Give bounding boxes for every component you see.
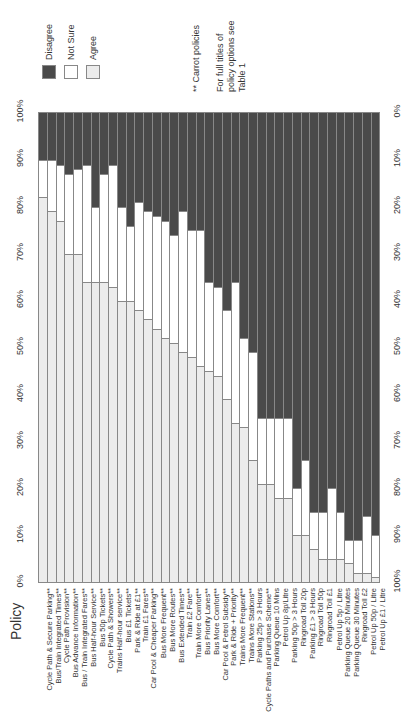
segment-disagree [328, 113, 336, 488]
segment-disagree [302, 113, 310, 460]
category-axis-title: Policy [8, 603, 24, 640]
bar-column [83, 113, 92, 582]
segment-agree [258, 484, 266, 582]
segment-disagree [310, 113, 318, 512]
bar-column [337, 113, 346, 582]
segment-disagree [118, 113, 126, 207]
bar-column [372, 113, 380, 582]
segment-disagree [354, 113, 362, 540]
bar-column [197, 113, 206, 582]
category-label-slot: Petrol Up £1 / Litre [371, 588, 380, 724]
bar-column [170, 113, 179, 582]
segment-not-sure [83, 165, 91, 282]
left-tick-100: 100% [15, 96, 25, 126]
segment-disagree [337, 113, 345, 512]
segment-not-sure [232, 282, 240, 423]
segment-agree [179, 352, 187, 582]
category-label-slot: Car Pool & Cheaper Parking** [143, 588, 152, 724]
legend-item-agree: Agree [84, 10, 106, 80]
segment-not-sure [249, 352, 257, 460]
category-label-slot: Ringroad Toll £1 [319, 588, 328, 724]
category-label-slot: Train More Comfort** [187, 588, 196, 724]
segment-not-sure [135, 202, 143, 310]
right-tick-80: 80% [392, 472, 402, 502]
segment-not-sure [240, 338, 248, 427]
segment-not-sure [345, 540, 353, 563]
right-tick-60: 60% [392, 378, 402, 408]
segment-agree [57, 221, 65, 582]
segment-disagree [135, 113, 143, 202]
right-tick-0: 0% [392, 96, 402, 126]
left-tick-70: 70% [15, 237, 25, 267]
segment-not-sure [65, 174, 73, 254]
segment-agree [170, 343, 178, 582]
category-label-slot: Petrol Up 5p / Litre [327, 588, 336, 724]
bar-column [153, 113, 162, 582]
category-label-slot: Bus Extended Times** [169, 588, 178, 724]
bar-column [293, 113, 302, 582]
bar-column [302, 113, 311, 582]
segment-agree [74, 254, 82, 582]
bar-column [310, 113, 319, 582]
category-labels: Cycle Path & Secure Parking**Bus/Train I… [38, 588, 380, 724]
bar-column [162, 113, 171, 582]
category-label-slot: Parking £1 > 3 Hours [301, 588, 310, 724]
category-label-slot: Car Pool & Petrol Subsidy** [213, 588, 222, 724]
segment-disagree [74, 113, 82, 169]
bar-column [65, 113, 74, 582]
bar-column [92, 113, 101, 582]
right-tick-10: 10% [392, 143, 402, 173]
bar-column [144, 113, 153, 582]
segment-not-sure [214, 287, 222, 376]
segment-disagree [109, 113, 117, 165]
segment-disagree [197, 113, 205, 230]
segment-disagree [48, 113, 56, 160]
segment-agree [345, 563, 353, 582]
segment-agree [310, 549, 318, 582]
legend-label-disagree: Disagree [44, 24, 54, 60]
category-label-slot: Ringroad Toll £2 [354, 588, 363, 724]
right-tick-50: 50% [392, 331, 402, 361]
left-tick-20: 20% [15, 472, 25, 502]
bar-column [179, 113, 188, 582]
bar-column [328, 113, 337, 582]
category-label-slot: Petrol Up 50p / Litre [362, 588, 371, 724]
segment-disagree [363, 113, 371, 516]
legend-label-not-sure: Not Sure [66, 24, 76, 60]
segment-disagree [372, 113, 380, 535]
segment-agree [205, 371, 213, 582]
category-label-slot: Ringroad Toll 20p [292, 588, 301, 724]
segment-disagree [153, 113, 161, 216]
bar-column [363, 113, 372, 582]
legend-label-agree: Agree [88, 36, 98, 60]
category-label-slot: Parking 25p > 3 Hours [248, 588, 257, 724]
segment-agree [363, 573, 371, 582]
segment-not-sure [284, 418, 292, 498]
right-tick-70: 70% [392, 425, 402, 455]
category-label-slot: Cycle Path & Showers** [99, 588, 108, 724]
segment-not-sure [100, 174, 108, 282]
segment-disagree [170, 113, 178, 235]
segment-agree [162, 338, 170, 582]
category-label-slot: Park & Ride at £1** [126, 588, 135, 724]
legend-swatch-disagree [42, 65, 56, 79]
segment-not-sure [74, 169, 82, 253]
bar-column [275, 113, 284, 582]
segment-not-sure [144, 211, 152, 319]
segment-not-sure [302, 460, 310, 535]
category-label-slot: Parking Queue 10 Mins [266, 588, 275, 724]
segment-not-sure [363, 516, 371, 572]
bar-column [57, 113, 66, 582]
category-label-slot: Ringroad Toll 50p [310, 588, 319, 724]
segment-not-sure [267, 418, 275, 484]
segment-agree [267, 484, 275, 582]
segment-disagree [127, 113, 135, 226]
category-label-slot: Bus Advance Information** [64, 588, 73, 724]
segment-not-sure [109, 165, 117, 287]
chart-legend: Disagree Not Sure Agree [40, 10, 110, 80]
segment-agree [109, 287, 117, 582]
segment-disagree [232, 113, 240, 282]
segment-not-sure [205, 282, 213, 371]
segment-not-sure [328, 488, 336, 558]
stacked-bar-plot [38, 112, 380, 583]
